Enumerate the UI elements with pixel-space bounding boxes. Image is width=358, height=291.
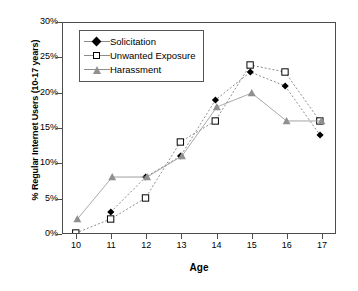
series-line [76,65,320,233]
x-tick-mark [322,234,323,239]
x-tick-mark [181,234,182,239]
x-axis-title: Age [62,262,336,273]
series-line [77,93,321,219]
marker-open-square [107,216,113,222]
marker-filled-diamond [247,68,254,75]
marker-open-square [247,62,253,68]
y-tick-label: 0% [24,229,58,238]
marker-filled-diamond [107,208,114,215]
marker-open-square [282,69,288,75]
x-tick-label: 10 [61,241,91,250]
open-square-icon [84,49,110,63]
series-harassment [73,89,325,222]
legend-item-harassment: Harassment [84,63,196,77]
legend-item-solicitation: Solicitation [84,35,196,49]
marker-filled-diamond [316,131,323,138]
x-tick-mark [111,234,112,239]
chart-figure: % Regular Internet Users (10-17 years) 0… [0,0,358,291]
x-tick-label: 12 [131,241,161,250]
x-tick-label: 14 [202,241,232,250]
x-tick-label: 11 [96,241,126,250]
marker-open-square [142,195,148,201]
filled-diamond-icon [84,35,110,49]
x-tick-label: 13 [166,241,196,250]
x-tick-mark [217,234,218,239]
marker-open-square [73,230,79,233]
x-tick-mark [146,234,147,239]
legend-label: Unwanted Exposure [110,51,196,61]
marker-open-square [212,118,218,124]
filled-triangle-icon [84,63,110,77]
marker-open-square [177,139,183,145]
marker-filled-triangle [213,103,221,110]
marker-filled-triangle [248,89,256,96]
x-tick-label: 17 [307,241,337,250]
legend-label: Solicitation [110,37,156,47]
legend-label: Harassment [110,65,161,75]
y-tick-mark [56,234,62,235]
series-solicitation [107,68,323,215]
x-tick-mark [76,234,77,239]
x-tick-mark [252,234,253,239]
x-tick-label: 15 [237,241,267,250]
chart-legend: Solicitation Unwanted Exposure Harassmen… [79,30,204,82]
series-line [111,72,320,212]
x-tick-label: 16 [272,241,302,250]
x-tick-mark [287,234,288,239]
legend-item-unwanted-exposure: Unwanted Exposure [84,49,196,63]
y-axis-title: % Regular Internet Users (10-17 years) [30,15,40,225]
marker-filled-diamond [282,82,289,89]
